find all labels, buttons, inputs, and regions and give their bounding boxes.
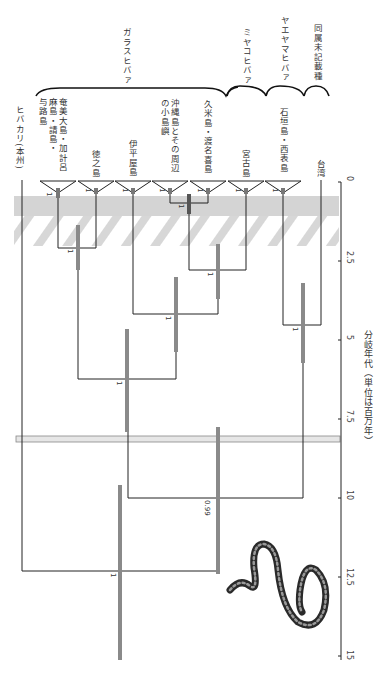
tip-label-hibakari: ヒバカリ(本州) (14, 106, 24, 169)
support-value: 1 (206, 272, 214, 276)
support-value: 1 (45, 192, 53, 196)
tip-label-iheya: 伊平屋島 (127, 140, 137, 177)
tip-label-tokunoshima: 徳之島 (90, 150, 100, 178)
tip-label-ishigaki: 石垣島・西表島 (278, 108, 288, 173)
axis-tick: 0 (345, 176, 354, 181)
group-braces (36, 86, 329, 96)
group-label-yaeyamahibaa: ヤエヤマヒバァ (278, 16, 290, 83)
support-value: 1 (234, 188, 242, 192)
tip-label-amami: 奄美大島・加計呂 麻島・請島・ 与路島 (37, 98, 67, 172)
support-value: 0.99 (203, 500, 211, 516)
support-value: 1 (66, 249, 74, 253)
hatched-band (14, 216, 339, 246)
axis-tick: 5 (345, 335, 354, 340)
support-value: 1 (164, 316, 172, 320)
group-label-undescribed: 同属未記載種 (311, 24, 323, 81)
tip-label-miyako: 宮古島 (240, 150, 250, 178)
support-value: 1 (115, 381, 123, 385)
axis-title: 分岐年代（単位は百万年） (362, 330, 375, 445)
tip-label-kume: 久米島・渡名喜島 (202, 100, 212, 174)
axis-tick: 10 (345, 490, 354, 500)
group-label-garasuhibaa: ガラスヒバァ (120, 28, 132, 85)
support-value: 1 (291, 327, 299, 331)
support-value: 1 (121, 188, 129, 192)
support-value: 1 (196, 188, 204, 192)
axis-tick: 2.5 (345, 251, 354, 264)
group-label-miyakohibaa: ミヤコヒバァ (240, 28, 252, 85)
snake-illustration (220, 530, 340, 640)
axis-tick: 15 (345, 650, 354, 660)
support-value: 1 (177, 204, 185, 208)
support-value: 1 (158, 188, 166, 192)
tip-label-okinawa: 沖縄島とその周辺 の小島嶼 (159, 99, 179, 173)
axis-tick: 7.5 (345, 410, 354, 423)
event-marker-bar (16, 436, 340, 442)
tip-label-taiwan: 台湾 (315, 160, 325, 179)
support-value: 1 (84, 188, 92, 192)
support-value: 1 (109, 573, 117, 577)
support-value: 1 (271, 188, 279, 192)
axis-tick: 12.5 (345, 568, 354, 586)
